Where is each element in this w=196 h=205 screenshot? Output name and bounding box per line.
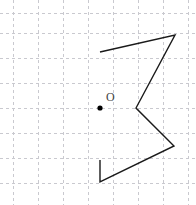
figure-canvas: O: [0, 0, 196, 205]
grid-layer: [0, 0, 196, 205]
origin-point-dot: [97, 105, 102, 110]
origin-point-label: O: [106, 90, 115, 104]
geometry-figure-svg: O: [0, 0, 196, 205]
